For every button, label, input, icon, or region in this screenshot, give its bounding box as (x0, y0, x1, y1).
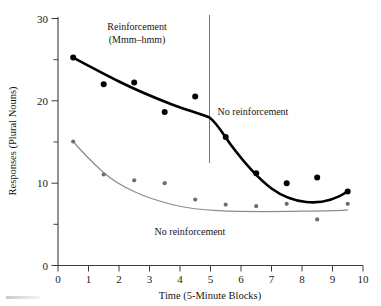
x-tick-label-1: 1 (86, 273, 92, 285)
x-tick-label-4: 4 (177, 273, 183, 285)
x-tick-label-6: 6 (238, 273, 244, 285)
y-axis-ticks (52, 19, 59, 266)
annotation-no-reinforcement-bottom: No reinforcement (155, 226, 226, 237)
x-tick-label-5: 5 (208, 273, 214, 285)
x-axis-ticks (58, 266, 363, 272)
y-tick-label-20: 20 (37, 95, 49, 107)
x-tick-label-0: 0 (55, 273, 61, 285)
annotation-reinforcement-line1: Reinforcement (107, 21, 167, 32)
annotation-no-reinforcement-right: No reinforcement (218, 106, 289, 117)
y-tick-label-10: 10 (37, 177, 49, 189)
x-tick-label-2: 2 (116, 273, 122, 285)
caption-fragment (6, 296, 40, 299)
x-tick-label-3: 3 (147, 273, 153, 285)
x-axis-title: Time (5-Minute Blocks) (159, 290, 262, 302)
x-tick-label-8: 8 (299, 273, 305, 285)
figure-container: 0 10 20 30 0 1 2 3 4 5 6 7 8 9 10 Time (… (0, 0, 381, 306)
x-tick-label-10: 10 (358, 273, 370, 285)
y-tick-label-0: 0 (43, 260, 49, 272)
y-axis-title: Responses (Plural Nouns) (7, 86, 19, 196)
series-reinforced-points (70, 55, 351, 195)
x-tick-label-7: 7 (269, 273, 275, 285)
y-tick-label-30: 30 (37, 13, 49, 25)
annotation-reinforcement-line2: (Mmm–hmm) (109, 34, 166, 46)
x-tick-label-9: 9 (330, 273, 336, 285)
chart-canvas: 0 10 20 30 0 1 2 3 4 5 6 7 8 9 10 Time (… (0, 0, 381, 306)
